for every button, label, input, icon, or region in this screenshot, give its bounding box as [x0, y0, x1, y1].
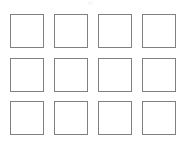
- capture-artifact: [88, 1, 93, 5]
- cell-r3-c2[interactable]: [54, 101, 88, 135]
- cell-r3-c4[interactable]: [142, 101, 176, 135]
- cell-r2-c3[interactable]: [98, 58, 132, 92]
- cell-r2-c2[interactable]: [54, 58, 88, 92]
- cell-r1-c4[interactable]: [142, 14, 176, 48]
- grid-canvas: [0, 0, 184, 141]
- square-grid: [10, 14, 176, 135]
- cell-r3-c1[interactable]: [10, 101, 44, 135]
- cell-r1-c3[interactable]: [98, 14, 132, 48]
- cell-r2-c4[interactable]: [142, 58, 176, 92]
- cell-r2-c1[interactable]: [10, 58, 44, 92]
- cell-r1-c1[interactable]: [10, 14, 44, 48]
- cell-r1-c2[interactable]: [54, 14, 88, 48]
- cell-r3-c3[interactable]: [98, 101, 132, 135]
